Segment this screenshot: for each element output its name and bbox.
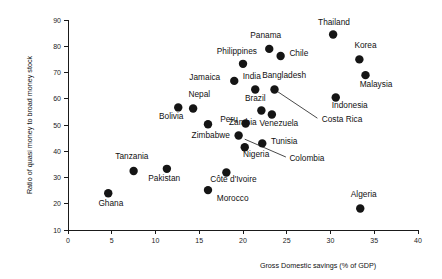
x-tick-label: 10 [152,237,160,244]
data-point-label: Malaysia [360,79,393,89]
data-point-label: Algeria [351,189,377,199]
data-point [265,45,273,53]
data-point-label: Tanzania [115,151,149,161]
data-point-label: Korea [354,40,377,50]
y-tick-label: 40 [53,148,61,155]
data-point [129,167,137,175]
data-point [258,139,266,147]
y-tick-label: 90 [53,17,61,24]
data-point-label: Venezuela [259,118,298,128]
data-point-label: Tunisia [271,136,298,146]
data-point-label: Chile [289,48,308,58]
y-axis-title: Ratio of quasi money to broad money stoc… [25,55,34,194]
data-point-label: India [243,71,261,81]
x-tick-label: 5 [110,237,114,244]
data-point-label: Pakistan [148,173,180,183]
y-tick-label: 10 [53,227,61,234]
data-point-label: Zimbabwe [192,130,231,140]
data-point [329,30,337,38]
data-point [230,77,238,85]
leader-line [275,90,318,119]
data-point [163,165,171,173]
x-tick-label: 30 [327,237,335,244]
y-tick-label: 30 [53,174,61,181]
x-tick-label: 25 [283,237,291,244]
y-tick-label: 50 [53,122,61,129]
data-point [204,186,212,194]
data-point-label: Bolivia [159,111,184,121]
data-point-label: Nepal [188,89,210,99]
data-point [239,60,247,68]
data-point-label: Indonesia [332,100,368,110]
data-point-label: Panama [250,30,281,40]
y-tick-label: 60 [53,95,61,102]
data-point-label: Ghana [98,198,123,208]
data-point [257,106,265,114]
data-point [204,120,212,128]
data-point-labels: Costa RicaColombiaGhanaTanzaniaPakistanB… [98,17,392,208]
scatter-chart-figure: 0510152025303540102030405060708090 Costa… [0,0,442,279]
leader-label: Colombia [289,153,324,163]
x-tick-label: 0 [66,237,70,244]
data-point-label: Peru [220,114,238,124]
data-point-label: Nigeria [243,149,270,159]
x-tick-label: 40 [414,237,422,244]
data-point-label: Brazil [245,93,266,103]
data-point-label: Thailand [318,17,350,27]
x-tick-label: 15 [195,237,203,244]
data-point [189,104,197,112]
x-axis-title: Gross Domestic savings (% of GDP) [260,261,376,270]
y-tick-label: 70 [53,69,61,76]
data-point [234,131,242,139]
data-point-label: Morocco [217,193,249,203]
data-point-label: Côte d'Ivoire [210,174,257,184]
y-tick-label: 80 [53,43,61,50]
data-point [104,189,112,197]
data-point-label: Bangladesh [262,70,306,80]
plot-canvas: 0510152025303540102030405060708090 Costa… [0,0,442,279]
data-point [276,52,284,60]
data-point-label: Philippines [217,46,257,56]
data-point [356,204,364,212]
x-tick-label: 20 [239,237,247,244]
leader-label: Costa Rica [322,114,363,124]
x-tick-label: 35 [370,237,378,244]
y-tick-label: 20 [53,200,61,207]
data-point [355,55,363,63]
data-point [270,85,278,93]
data-point-label: Jamaica [189,72,220,82]
